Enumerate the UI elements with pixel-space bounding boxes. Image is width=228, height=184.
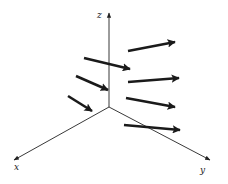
vector-arrow-5: [126, 98, 175, 107]
y-axis: [109, 107, 210, 160]
vector-arrow-6: [68, 96, 92, 111]
vector-arrow-4: [76, 76, 108, 90]
vector-arrow-2: [84, 58, 130, 69]
y-axis-label: y: [199, 165, 206, 175]
vector-arrow-3: [128, 78, 179, 82]
x-axis-label: x: [14, 162, 19, 172]
vector-field-diagram: zxy: [0, 0, 228, 184]
vector-arrow-1: [128, 42, 175, 51]
vectors-group: [68, 42, 180, 130]
z-axis-label: z: [96, 10, 102, 20]
x-axis: [14, 107, 109, 160]
axes-group: [14, 13, 210, 160]
axis-labels-group: zxy: [14, 10, 206, 175]
